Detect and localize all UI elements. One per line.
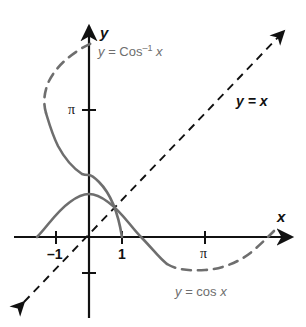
identity-label-arg: x (260, 93, 268, 109)
cos-label-y: y (175, 284, 182, 299)
arccos-label-eq: = (108, 44, 116, 59)
y-tick-label-pi: π (68, 103, 75, 117)
arccos-label-arg: x (156, 44, 163, 59)
arccos-label-y: y (98, 44, 105, 59)
identity-line-label: y = x (236, 94, 268, 108)
axis-ticks (56, 110, 205, 273)
arccos-curve-label: y = Cos–1 x (98, 44, 163, 58)
identity-label-y: y (236, 93, 244, 109)
cos-label-arg: x (220, 284, 227, 299)
arccos-curve (44, 42, 122, 237)
cosine-curve (37, 194, 274, 270)
x-tick-label-1: 1 (118, 247, 126, 261)
x-axis-label: x (277, 209, 285, 224)
arccos-label-exponent: –1 (142, 43, 152, 53)
identity-line (24, 31, 284, 302)
y-axis-label: y (100, 25, 108, 40)
x-tick-label-neg1: –1 (47, 247, 63, 261)
arccos-label-fn: Cos (119, 44, 142, 59)
graph-figure: y x –1 1 π π y = Cos–1 x y = x y = cos x (0, 0, 306, 327)
identity-label-eq: = (248, 93, 256, 109)
cos-label-fn: cos (196, 284, 216, 299)
x-tick-label-pi: π (200, 247, 207, 261)
cos-label-eq: = (185, 284, 193, 299)
cosine-curve-label: y = cos x (175, 285, 227, 298)
